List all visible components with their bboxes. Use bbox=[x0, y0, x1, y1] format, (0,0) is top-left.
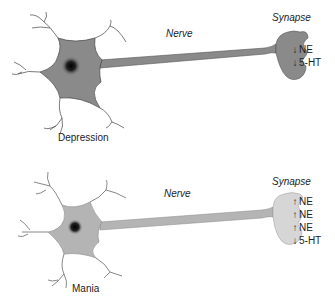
neurotransmitter-item: ↑NE bbox=[291, 208, 321, 221]
mania-axon bbox=[100, 207, 273, 230]
depression-neuron bbox=[12, 12, 308, 134]
mania-neurotransmitter-list: ↑NE ↑NE ↑NE ↓5-HT bbox=[291, 195, 321, 247]
mania-nucleus bbox=[67, 219, 83, 235]
arrow-down-icon: ↓ bbox=[291, 234, 299, 247]
mania-neuron bbox=[18, 172, 303, 288]
neurotransmitter-item: ↑NE bbox=[291, 221, 321, 234]
arrow-down-icon: ↓ bbox=[291, 43, 299, 56]
arrow-up-icon: ↑ bbox=[291, 195, 299, 208]
depression-state-label: Depression bbox=[58, 132, 109, 143]
depression-axon bbox=[100, 44, 276, 68]
neurotransmitter-item: ↑NE bbox=[291, 195, 321, 208]
neurotransmitter-item: ↓5-HT bbox=[291, 234, 321, 247]
arrow-up-icon: ↑ bbox=[291, 221, 299, 234]
mania-nerve-label: Nerve bbox=[164, 188, 191, 199]
mania-synapse-label: Synapse bbox=[272, 176, 311, 187]
depression-neurotransmitter-list: ↓NE ↓5-HT bbox=[291, 43, 321, 69]
mania-state-label: Mania bbox=[72, 283, 99, 294]
arrow-up-icon: ↑ bbox=[291, 208, 299, 221]
neurotransmitter-item: ↓NE bbox=[291, 43, 321, 56]
neurotransmitter-item: ↓5-HT bbox=[291, 56, 321, 69]
depression-synapse-label: Synapse bbox=[272, 12, 311, 23]
depression-nucleus bbox=[61, 56, 81, 76]
depression-nerve-label: Nerve bbox=[166, 28, 193, 39]
arrow-down-icon: ↓ bbox=[291, 56, 299, 69]
